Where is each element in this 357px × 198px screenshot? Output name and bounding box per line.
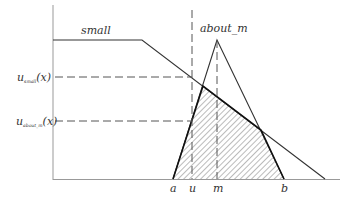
- label-u-about-m: uabout_m(x): [16, 115, 57, 129]
- tick-m: m: [213, 182, 223, 195]
- label-u-small: usmall(x): [17, 71, 51, 84]
- label-small: small: [81, 24, 111, 37]
- shaded-region: [173, 86, 284, 179]
- tick-u: u: [189, 182, 196, 195]
- fuzzy-diagram: small about_m usmall(x) uabout_m(x) a u …: [0, 0, 357, 198]
- tick-a: a: [170, 182, 177, 195]
- tick-b: b: [281, 182, 288, 195]
- label-about-m: about_m: [200, 22, 248, 35]
